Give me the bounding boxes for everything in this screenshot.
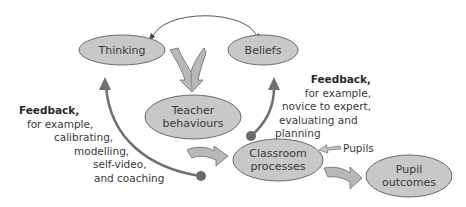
classroom-to-pupil-arrow-icon [324, 167, 362, 189]
feedback-right-arrowhead-icon [268, 77, 280, 90]
feedback-right-curve [251, 88, 274, 136]
feedback-left-line: calibrating, [54, 131, 124, 145]
feedback-left-line: modelling, [74, 145, 144, 159]
thinking-label: Thinking [98, 44, 145, 57]
classroom-line2: processes [249, 160, 306, 173]
feedback-right-line: for example, [281, 87, 371, 101]
pupils-input-label: Pupils [343, 142, 374, 154]
feedback-right-text: Feedback, for example, novice to expert,… [281, 73, 371, 141]
feedback-left-line: for example, [27, 118, 97, 132]
feedback-left-title: Feedback, [19, 104, 79, 116]
beliefs-label: Beliefs [245, 44, 282, 57]
feedback-left-line: and coaching [94, 172, 164, 186]
pupil-line2: outcomes [382, 176, 436, 189]
thinking-beliefs-arc [152, 16, 258, 39]
feedback-left-text: Feedback, for example, calibrating, mode… [19, 104, 89, 185]
merge-arrow-icon [170, 48, 206, 92]
feedback-left-arrowhead-icon [99, 77, 111, 90]
classroom-processes-label: Classroom processes [249, 147, 306, 173]
pupils-input-arrow-icon [319, 145, 341, 153]
classroom-line1: Classroom [249, 147, 306, 160]
teacher-behaviours-label: Teacher behaviours [163, 104, 224, 130]
feedback-right-origin-dot [246, 131, 256, 141]
feedback-left-origin-dot [196, 171, 206, 181]
teacher-line1: Teacher [163, 104, 224, 117]
feedback-left-line: self-video, [93, 158, 163, 172]
teacher-to-classroom-arrow-icon [187, 146, 228, 166]
pupil-outcomes-label: Pupil outcomes [382, 163, 436, 189]
feedback-right-title: Feedback, [311, 73, 371, 85]
teacher-line2: behaviours [163, 117, 224, 130]
feedback-right-line: planning [275, 127, 371, 141]
feedback-right-line: novice to expert, [281, 100, 371, 114]
feedback-right-line: evaluating and [279, 114, 371, 128]
pupil-line1: Pupil [382, 163, 436, 176]
